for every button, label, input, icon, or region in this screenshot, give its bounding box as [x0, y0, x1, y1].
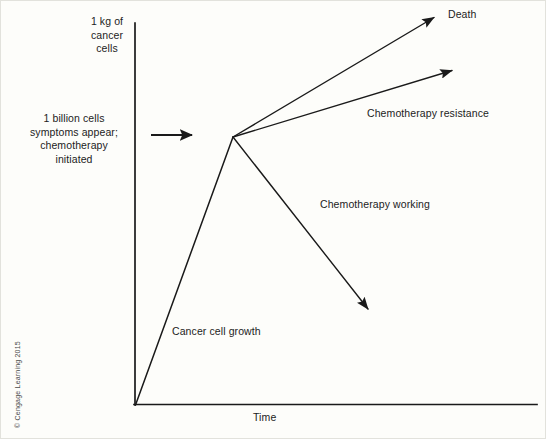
x-axis-label: Time	[253, 411, 276, 425]
chemotherapy-resistance-label: Chemotherapy resistance	[367, 107, 489, 121]
figure-container: 1 kg of cancer cells 1 billion cells sym…	[0, 0, 546, 439]
copyright-credit: © Cengage Learning 2015	[14, 337, 21, 433]
death-label: Death	[448, 8, 477, 22]
y-axis-mid-label: 1 billion cells symptoms appear; chemoth…	[13, 112, 135, 166]
cancer-cell-growth-label: Cancer cell growth	[172, 325, 261, 339]
chemotherapy-resistance-arrow	[233, 71, 452, 138]
y-axis-top-label: 1 kg of cancer cells	[61, 15, 153, 56]
chemotherapy-working-arrow	[233, 137, 368, 309]
chemotherapy-working-label: Chemotherapy working	[320, 198, 430, 212]
cancer-cell-growth-line	[136, 137, 234, 405]
diagram-svg	[1, 1, 546, 439]
